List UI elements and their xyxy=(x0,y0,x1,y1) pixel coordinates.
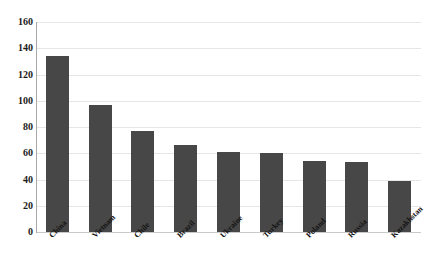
y-tick-label-0: 0 xyxy=(1,227,33,237)
y-tick-label-140: 140 xyxy=(1,43,33,53)
bar-chile[interactable] xyxy=(131,131,154,232)
bars-layer xyxy=(36,22,421,232)
x-axis-tick-labels: ChinaVietnamChileBrazilUkraineTurkeyPola… xyxy=(36,234,421,278)
bar-vietnam[interactable] xyxy=(89,105,112,232)
y-tick-label-160: 160 xyxy=(1,17,33,27)
y-tick-label-20: 20 xyxy=(1,201,33,211)
y-tick-label-80: 80 xyxy=(1,122,33,132)
y-tick-label-100: 100 xyxy=(1,96,33,106)
y-tick-label-60: 60 xyxy=(1,148,33,158)
bar-brazil[interactable] xyxy=(174,145,197,232)
y-tick-label-40: 40 xyxy=(1,175,33,185)
bar-china[interactable] xyxy=(46,56,69,232)
bar-chart: 160140120100806040200 ChinaVietnamChileB… xyxy=(0,0,432,278)
y-axis-tick-labels: 160140120100806040200 xyxy=(0,22,33,232)
y-tick-label-120: 120 xyxy=(1,70,33,80)
